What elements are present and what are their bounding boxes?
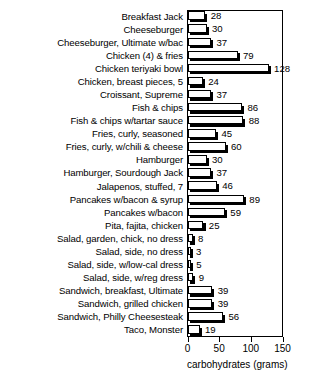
bar-fill bbox=[188, 38, 211, 46]
bar-fill bbox=[188, 260, 191, 268]
bar-value-label: 89 bbox=[249, 193, 260, 207]
bar bbox=[188, 286, 216, 297]
category-label: Sandwich, grilled chicken bbox=[0, 297, 183, 311]
category-label: Fries, curly, w/chili & cheese bbox=[0, 140, 183, 154]
bar bbox=[188, 260, 194, 271]
category-label: Croissant, Supreme bbox=[0, 88, 183, 102]
bar-fill bbox=[188, 103, 242, 111]
bar-fill bbox=[188, 51, 238, 59]
x-axis-tick-label: 0 bbox=[171, 343, 205, 354]
x-axis-tick bbox=[219, 337, 220, 342]
bar-fill bbox=[188, 208, 225, 216]
x-axis-tick bbox=[188, 337, 189, 342]
category-label: Salad, side, w/low-cal dress bbox=[0, 258, 183, 272]
bar bbox=[188, 299, 216, 310]
bar-fill bbox=[188, 168, 211, 176]
bar-fill bbox=[188, 299, 213, 307]
x-axis-tick bbox=[251, 337, 252, 342]
bar bbox=[188, 181, 220, 192]
bar-value-label: 37 bbox=[216, 88, 227, 102]
category-label: Chicken teriyaki bowl bbox=[0, 62, 183, 76]
category-label: Sandwich, Philly Cheesesteak bbox=[0, 310, 183, 324]
category-label: Jalapenos, stuffed, 7 bbox=[0, 180, 183, 194]
bar-value-label: 37 bbox=[216, 36, 227, 50]
category-label: Fries, curly, seasoned bbox=[0, 127, 183, 141]
category-label: Salad, side, no dress bbox=[0, 245, 183, 259]
bar-fill bbox=[188, 129, 217, 137]
bar-fill bbox=[188, 273, 194, 281]
bar bbox=[188, 195, 247, 206]
carbohydrates-bar-chart: Breakfast Jack28Cheeseburger30Cheeseburg… bbox=[0, 0, 312, 390]
x-axis-title: carbohydrates (grams) bbox=[187, 359, 283, 370]
x-axis: carbohydrates (grams) 050100150 bbox=[0, 337, 312, 390]
bar-value-label: 86 bbox=[247, 101, 258, 115]
bar bbox=[188, 234, 196, 245]
bar bbox=[188, 38, 214, 49]
bar-value-label: 8 bbox=[198, 232, 203, 246]
bar-value-label: 39 bbox=[218, 284, 229, 298]
bar bbox=[188, 142, 229, 153]
bar-value-label: 25 bbox=[209, 219, 220, 233]
bar-value-label: 30 bbox=[212, 153, 223, 167]
bar-fill bbox=[188, 64, 269, 72]
category-label: Pancakes w/bacon & syrup bbox=[0, 193, 183, 207]
category-label: Salad, side, w/reg dress bbox=[0, 271, 183, 285]
bar-fill bbox=[188, 234, 193, 242]
bar bbox=[188, 116, 247, 127]
bar-fill bbox=[188, 142, 226, 150]
bar-value-label: 128 bbox=[274, 62, 290, 76]
category-label: Breakfast Jack bbox=[0, 10, 183, 24]
category-label: Fish & chips w/tartar sauce bbox=[0, 114, 183, 128]
bar-fill bbox=[188, 286, 213, 294]
category-label: Pancakes w/bacon bbox=[0, 206, 183, 220]
bar-fill bbox=[188, 90, 211, 98]
bar-fill bbox=[188, 116, 244, 124]
bar-value-label: 79 bbox=[243, 49, 254, 63]
bar-fill bbox=[188, 155, 207, 163]
category-label: Hamburger bbox=[0, 153, 183, 167]
x-axis-tick-label: 50 bbox=[202, 343, 236, 354]
bar-value-label: 37 bbox=[216, 166, 227, 180]
category-label: Fish & chips bbox=[0, 101, 183, 115]
bar bbox=[188, 129, 220, 140]
category-label: Taco, Monster bbox=[0, 323, 183, 337]
bar bbox=[188, 24, 210, 35]
bar bbox=[188, 64, 272, 75]
bar-fill bbox=[188, 77, 203, 85]
category-label: Cheeseburger, Ultimate w/bac bbox=[0, 36, 183, 50]
x-axis-tick-label: 150 bbox=[266, 343, 300, 354]
category-label: Cheeseburger bbox=[0, 23, 183, 37]
bar-value-label: 60 bbox=[231, 140, 242, 154]
category-label: Sandwich, breakfast, Ultimate bbox=[0, 284, 183, 298]
bar bbox=[188, 11, 209, 22]
bar-fill bbox=[188, 221, 204, 229]
chart-title-clipped bbox=[150, 0, 310, 3]
x-axis-tick-label: 100 bbox=[234, 343, 268, 354]
bar-value-label: 88 bbox=[249, 114, 260, 128]
bar bbox=[188, 51, 241, 62]
bar bbox=[188, 90, 214, 101]
bar-value-label: 30 bbox=[212, 22, 223, 36]
category-label: Salad, garden, chick, no dress bbox=[0, 232, 183, 246]
bar bbox=[188, 77, 206, 88]
category-label: Hamburger, Sourdough Jack bbox=[0, 166, 183, 180]
bar-fill bbox=[188, 24, 207, 32]
bar-value-label: 3 bbox=[196, 245, 201, 259]
bar-value-label: 5 bbox=[196, 258, 201, 272]
category-label: Chicken, breast pieces, 5 bbox=[0, 75, 183, 89]
bar-fill bbox=[188, 181, 217, 189]
bar bbox=[188, 168, 214, 179]
bar-value-label: 45 bbox=[222, 127, 233, 141]
bar-rows: Breakfast Jack28Cheeseburger30Cheeseburg… bbox=[0, 10, 312, 337]
bar-value-label: 9 bbox=[199, 271, 204, 285]
bar bbox=[188, 247, 194, 258]
bar-value-label: 39 bbox=[218, 297, 229, 311]
bar bbox=[188, 155, 210, 166]
x-axis-tick bbox=[283, 337, 284, 342]
bar-value-label: 56 bbox=[228, 310, 239, 324]
bar-fill bbox=[188, 325, 200, 333]
bar bbox=[188, 221, 207, 232]
bar-value-label: 19 bbox=[205, 323, 216, 337]
bar-value-label: 59 bbox=[230, 206, 241, 220]
bar-fill bbox=[188, 247, 191, 255]
